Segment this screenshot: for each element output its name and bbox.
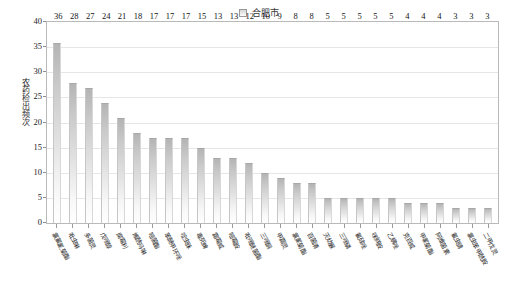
bar-column[interactable]: 17 [161, 22, 177, 223]
bar-value-label: 17 [150, 12, 159, 21]
bar[interactable]: 21 [117, 118, 125, 223]
y-tick-label: 10 [18, 167, 42, 177]
bar-column[interactable]: 17 [177, 22, 193, 223]
x-tick-label: 乙螨唑 [386, 231, 401, 250]
x-tick-label: 甲霜灵 [274, 231, 289, 250]
bar[interactable]: 17 [181, 138, 189, 223]
bar[interactable]: 5 [356, 198, 364, 223]
bar-column[interactable]: 8 [305, 22, 321, 223]
bar-column[interactable]: 17 [145, 22, 161, 223]
bar-column[interactable]: 4 [432, 22, 448, 223]
y-tick-label: 30 [18, 66, 42, 76]
bar-column[interactable]: 5 [352, 22, 368, 223]
y-tick-label: 40 [18, 16, 42, 26]
bar-column[interactable]: 5 [336, 22, 352, 223]
bar[interactable]: 13 [213, 158, 221, 223]
x-tick-mark [72, 224, 73, 228]
bar-column[interactable]: 3 [448, 22, 464, 223]
bar-column[interactable]: 10 [257, 22, 273, 223]
y-tick-mark [43, 21, 46, 22]
x-label-column: 多菌灵 [81, 231, 97, 287]
bar-chart: 合肥市 农药检出频次 0510152025303540 362827242118… [0, 0, 517, 288]
bar-column[interactable]: 4 [400, 22, 416, 223]
x-tick-label: 毒死蜱 [195, 231, 210, 250]
x-tick-mark [376, 224, 377, 228]
bar[interactable]: 10 [261, 173, 269, 223]
x-tick-mark [56, 224, 57, 228]
x-tick-mark [248, 224, 249, 228]
bar[interactable]: 5 [388, 198, 396, 223]
x-label-column: 克百威 [400, 231, 416, 287]
bar-column[interactable]: 9 [273, 22, 289, 223]
x-tick-mark [344, 224, 345, 228]
bar-value-label: 12 [246, 12, 255, 21]
x-tick-label: 嘧霉胺 [226, 231, 241, 250]
x-tick-mark [296, 224, 297, 228]
bar[interactable]: 3 [468, 208, 476, 223]
bar[interactable]: 4 [420, 203, 428, 223]
bar[interactable]: 4 [404, 203, 412, 223]
x-tick-mark [136, 224, 137, 228]
bar-value-label: 13 [214, 12, 223, 21]
bar-value-label: 36 [54, 12, 63, 21]
bar-value-label: 8 [309, 12, 313, 21]
x-label-column: 百菌清 [305, 231, 321, 287]
bar-value-label: 17 [182, 12, 191, 21]
bar-column[interactable]: 36 [49, 22, 65, 223]
bar[interactable]: 3 [452, 208, 460, 223]
bar[interactable]: 3 [484, 208, 492, 223]
bar[interactable]: 8 [293, 183, 301, 223]
bar-column[interactable]: 5 [384, 22, 400, 223]
bar-column[interactable]: 3 [480, 22, 496, 223]
bar[interactable]: 8 [308, 183, 316, 223]
bar-column[interactable]: 5 [368, 22, 384, 223]
bar-column[interactable]: 27 [81, 22, 97, 223]
bar[interactable]: 17 [165, 138, 173, 223]
x-label-column: 苯醚甲环唑 [161, 231, 177, 287]
bar[interactable]: 9 [277, 178, 285, 223]
y-tick-label: 25 [18, 91, 42, 101]
x-tick-mark [88, 224, 89, 228]
x-tick-mark [456, 224, 457, 228]
bar[interactable]: 27 [85, 88, 93, 223]
x-label-column: 腐霉利 [113, 231, 129, 287]
x-tick-label: 三唑酮 [258, 231, 273, 250]
bar[interactable]: 4 [436, 203, 444, 223]
bar-column[interactable]: 28 [65, 22, 81, 223]
bar-column[interactable]: 5 [320, 22, 336, 223]
bar[interactable]: 13 [229, 158, 237, 223]
bar-column[interactable]: 15 [193, 22, 209, 223]
bar-value-label: 4 [421, 12, 425, 21]
bar-column[interactable]: 18 [129, 22, 145, 223]
bar[interactable]: 36 [53, 43, 61, 223]
x-tick-mark [328, 224, 329, 228]
x-tick-label: 氟虫腈 [450, 231, 465, 250]
y-tick-mark [43, 71, 46, 72]
bar[interactable]: 28 [69, 83, 77, 223]
bar-column[interactable]: 13 [209, 22, 225, 223]
bar-column[interactable]: 24 [97, 22, 113, 223]
x-label-column: 三唑磷 [336, 231, 352, 287]
bar-column[interactable]: 21 [113, 22, 129, 223]
bar-value-label: 24 [102, 12, 111, 21]
x-label-column: 氯氰菊酯 [289, 231, 305, 287]
bar-value-label: 27 [86, 12, 95, 21]
bar-column[interactable]: 12 [241, 22, 257, 223]
bar-column[interactable]: 8 [289, 22, 305, 223]
bar[interactable]: 5 [340, 198, 348, 223]
bar[interactable]: 5 [324, 198, 332, 223]
bar-column[interactable]: 3 [464, 22, 480, 223]
bar[interactable]: 24 [101, 103, 109, 223]
x-label-column: 嘧菌酯 [145, 231, 161, 287]
bar[interactable]: 5 [372, 198, 380, 223]
bar[interactable]: 12 [245, 163, 253, 223]
bar-value-label: 9 [278, 12, 282, 21]
bar[interactable]: 17 [149, 138, 157, 223]
bar[interactable]: 15 [197, 148, 205, 223]
bar-value-label: 4 [405, 12, 409, 21]
x-label-column: 阿维菌素 [432, 231, 448, 287]
bar-column[interactable]: 13 [225, 22, 241, 223]
bar[interactable]: 18 [133, 133, 141, 223]
bar-column[interactable]: 4 [416, 22, 432, 223]
x-tick-mark [440, 224, 441, 228]
